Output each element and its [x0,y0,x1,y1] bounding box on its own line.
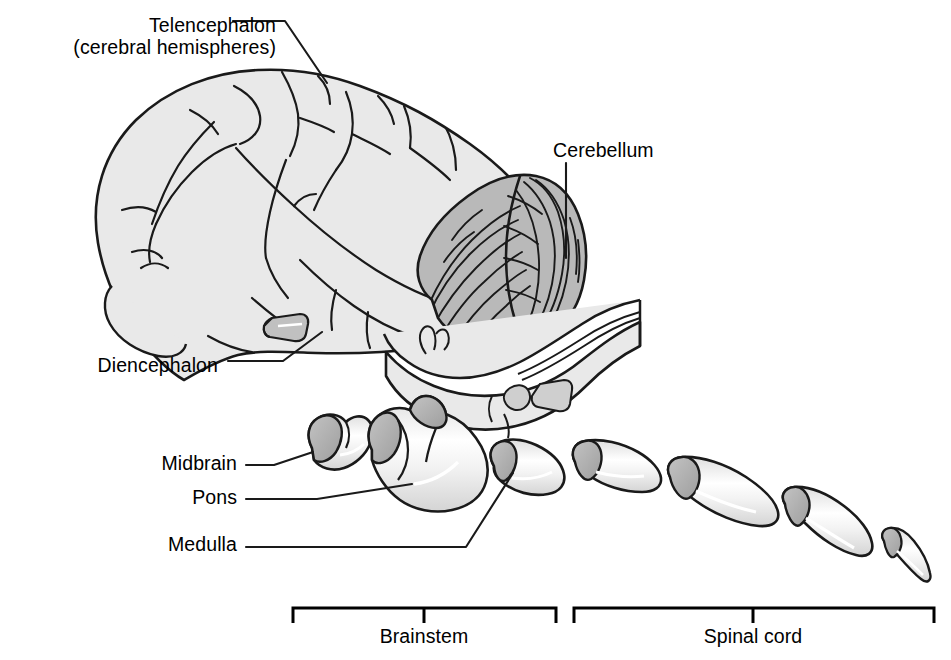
label-telencephalon-line2: (cerebral hemispheres) [0,36,276,59]
spinal-segment-4 [882,528,930,582]
label-midbrain: Midbrain [0,452,237,475]
bracket-spinal-cord [574,608,934,623]
label-cerebellum: Cerebellum [553,139,654,162]
segment-midbrain [309,415,373,470]
label-brainstem: Brainstem [344,625,504,648]
segment-medulla [491,440,565,495]
bracket-brainstem [293,608,556,623]
label-pons: Pons [0,486,237,509]
leader-midbrain [246,452,313,465]
label-medulla: Medulla [0,533,237,556]
brain-anatomy-figure: Telencephalon (cerebral hemispheres) Cer… [0,0,951,660]
spinal-segment-1 [573,440,661,492]
spinal-segment-2 [668,457,778,526]
label-diencephalon: Diencephalon [0,354,218,377]
spinal-segment-3 [783,487,872,556]
figure-illustration [0,0,951,660]
label-spinal-cord: Spinal cord [668,625,838,648]
label-telencephalon-line1: Telencephalon [0,14,276,37]
